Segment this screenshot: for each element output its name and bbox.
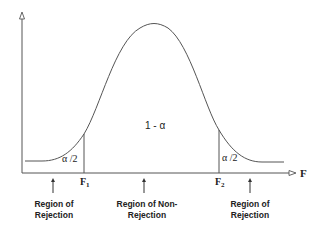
left-region-arrow-icon <box>51 178 55 193</box>
lower-critical-label: F1 <box>80 176 90 189</box>
left-region-label-line1: Region of <box>34 199 73 209</box>
center-region-arrow-icon <box>142 178 146 193</box>
y-axis-arrow-icon <box>20 12 25 19</box>
x-axis-label: F <box>300 167 307 179</box>
distribution-curve <box>25 24 284 163</box>
center-region-label-line1: Region of Non- <box>117 199 178 209</box>
left-region-label-line2: Rejection <box>35 210 73 220</box>
right-region-arrow-icon <box>248 178 252 193</box>
right-region-label: Region of Rejection <box>230 199 269 220</box>
left-region-label: Region of Rejection <box>34 199 73 220</box>
right-region-label-line2: Rejection <box>231 210 269 220</box>
center-region-label: Region of Non- Rejection <box>117 199 178 220</box>
right-tail-area-label: α /2 <box>222 152 238 163</box>
f-distribution-diagram: F F1 F2 α /2 1 - α α /2 Region of Reject… <box>0 0 320 229</box>
upper-critical-label: F2 <box>215 176 225 189</box>
left-tail-area-label: α /2 <box>62 153 78 164</box>
center-area-label: 1 - α <box>145 120 165 131</box>
x-axis-arrow-icon <box>289 171 296 176</box>
center-region-label-line2: Rejection <box>128 210 166 220</box>
right-region-label-line1: Region of <box>230 199 269 209</box>
